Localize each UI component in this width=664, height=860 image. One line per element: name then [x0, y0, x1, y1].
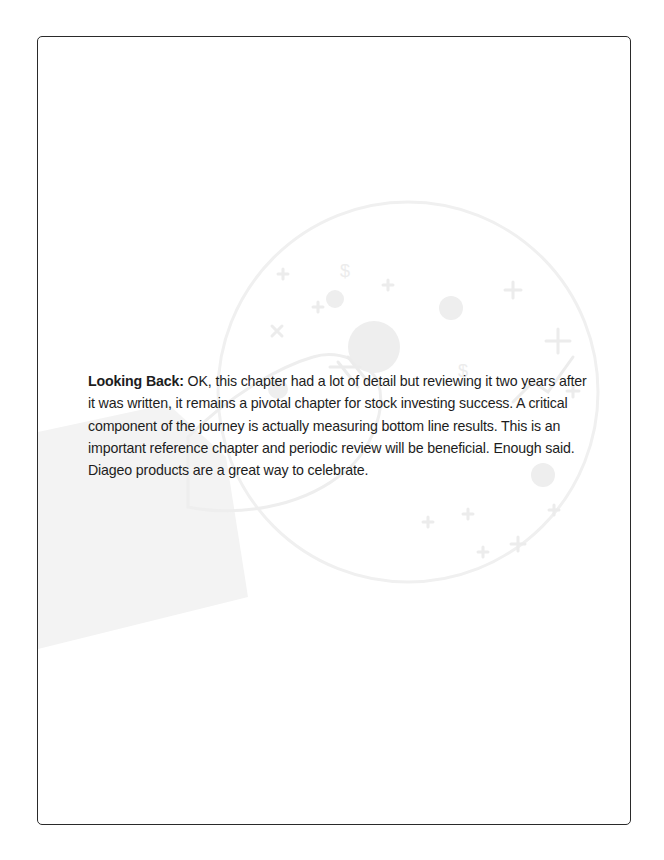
page-frame: $ $ Looking Back: OK, this chapter had a…: [37, 36, 631, 825]
looking-back-paragraph: Looking Back: OK, this chapter had a lot…: [88, 370, 588, 481]
svg-text:$: $: [340, 261, 350, 281]
looking-back-heading: Looking Back:: [88, 373, 184, 389]
